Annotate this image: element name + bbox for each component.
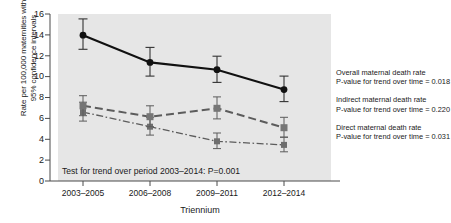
x-axis-ticks: [83, 181, 284, 186]
legend-entry-indirect: Indirect maternal death rate P-value for…: [336, 95, 451, 113]
y-axis-ticks: [45, 14, 50, 181]
maternal-death-rate-chart: Rate per 100,000 maternities with 95% co…: [0, 0, 451, 223]
trend-test-annotation: Test for trend over period 2003–2014: P=…: [62, 166, 240, 176]
legend-label-direct: Direct maternal death rate: [336, 123, 451, 132]
x-tick-label-2012-2014: 2012–2014: [244, 189, 324, 198]
legend-label-overall: Overall maternal death rate: [336, 68, 451, 77]
legend: Overall maternal death rate P-value for …: [336, 68, 451, 150]
legend-label-indirect: Indirect maternal death rate: [336, 95, 451, 104]
legend-pvalue-indirect: P-value for trend over time = 0.220: [336, 105, 451, 114]
legend-pvalue-direct: P-value for trend over time = 0.031: [336, 132, 451, 141]
legend-entry-direct: Direct maternal death rate P-value for t…: [336, 123, 451, 141]
legend-pvalue-overall: P-value for trend over time = 0.018: [336, 77, 451, 86]
plot-background: [58, 14, 331, 181]
legend-entry-overall: Overall maternal death rate P-value for …: [336, 68, 451, 86]
x-axis-title: Triennium: [60, 205, 340, 215]
